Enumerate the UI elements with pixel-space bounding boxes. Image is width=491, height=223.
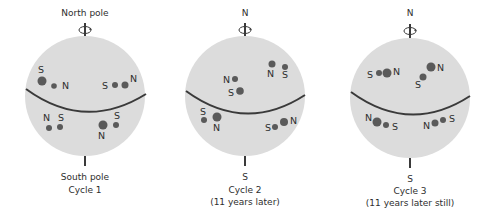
sun-sphere	[350, 38, 470, 158]
sunspot	[383, 69, 392, 78]
sunspot	[383, 122, 389, 128]
north-polarity-label: N	[213, 122, 220, 133]
sunspot	[99, 121, 108, 130]
rotation-arrow-icon	[239, 23, 252, 37]
north-pole-label: N	[242, 8, 249, 18]
south-polarity-label: S	[102, 80, 108, 91]
north-polarity-label: N	[437, 62, 444, 73]
north-polarity-label: N	[290, 115, 297, 126]
sunspot	[236, 87, 244, 95]
sunspot	[201, 117, 207, 123]
sunspot	[113, 122, 119, 128]
north-polarity-label: N	[130, 73, 137, 84]
north-polarity-label: N	[98, 130, 105, 141]
south-polarity-label: S	[449, 113, 455, 124]
sunspot	[122, 82, 129, 89]
south-polarity-label: S	[367, 69, 373, 80]
sunspot	[432, 120, 439, 127]
north-polarity-label: N	[223, 74, 230, 85]
sunspot	[232, 76, 238, 82]
cycle-subcaption: (11 years later)	[210, 197, 280, 207]
north-polarity-label: N	[267, 68, 274, 79]
sunspot-cycle-diagram: North pole SNSNNSSN South pole Cycle 1 N…	[0, 0, 491, 223]
sunspot	[280, 118, 288, 126]
north-polarity-label: N	[43, 112, 50, 123]
panel-cycle-3: N SNSNNSNS S Cycle 3 (11 years later sti…	[350, 8, 470, 208]
south-polarity-label: S	[114, 110, 120, 121]
sunspot	[269, 61, 276, 68]
south-polarity-label: S	[282, 69, 288, 80]
north-polarity-label: N	[393, 66, 400, 77]
panel-cycle-2: N NSNSSNSN S Cycle 2 (11 years later)	[185, 8, 305, 207]
sunspot	[213, 113, 222, 122]
panel-cycle-1: North pole SNSNNSSN South pole Cycle 1	[25, 8, 146, 195]
south-polarity-label: S	[38, 64, 44, 75]
south-pole-label: S	[407, 174, 413, 184]
sunspot	[38, 77, 47, 86]
sunspot	[440, 117, 446, 123]
rotation-arrow-icon	[404, 24, 417, 38]
south-polarity-label: S	[392, 121, 398, 132]
sunspot	[376, 70, 382, 76]
north-pole-label: North pole	[61, 8, 109, 18]
south-polarity-label: S	[228, 87, 234, 98]
south-polarity-label: S	[415, 79, 421, 90]
cycle-caption: Cycle 1	[68, 185, 101, 195]
cycle-caption: Cycle 3	[393, 186, 426, 196]
sunspot	[57, 124, 63, 130]
cycle-subcaption: (11 years later still)	[366, 198, 454, 208]
sun-sphere	[25, 36, 145, 156]
north-polarity-label: N	[423, 120, 430, 131]
sunspot	[46, 125, 52, 131]
north-polarity-label: N	[62, 80, 69, 91]
sunspot	[51, 83, 57, 89]
south-polarity-label: S	[58, 112, 64, 123]
south-pole-label: South pole	[61, 172, 110, 182]
south-polarity-label: S	[265, 122, 271, 133]
north-polarity-label: N	[365, 112, 372, 123]
sunspot	[112, 82, 118, 88]
sunspot	[373, 118, 382, 127]
rotation-arrow-icon	[79, 23, 92, 37]
cycle-caption: Cycle 2	[228, 185, 261, 195]
sunspot	[272, 124, 278, 130]
south-pole-label: S	[242, 172, 248, 182]
north-pole-label: N	[407, 8, 414, 18]
sun-sphere	[185, 36, 305, 156]
sunspot	[427, 63, 436, 72]
south-polarity-label: S	[200, 106, 206, 117]
